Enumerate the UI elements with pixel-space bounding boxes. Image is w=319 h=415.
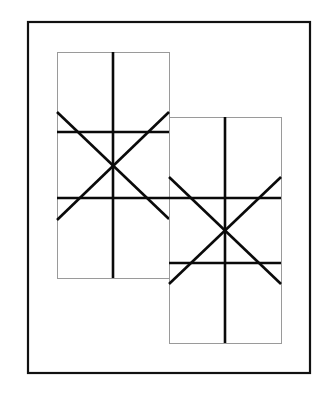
- diagram-canvas: [0, 0, 319, 415]
- background: [0, 0, 319, 415]
